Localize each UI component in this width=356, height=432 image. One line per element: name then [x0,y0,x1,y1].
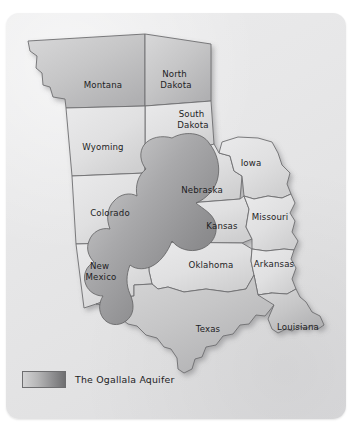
state-label-iowa: Iowa [241,158,262,168]
state-shape-arkansas [251,249,296,295]
state-label-nebraska: Nebraska [181,185,223,195]
legend-swatch-aquifer [22,371,66,388]
state-shape-wyoming [66,106,145,176]
legend-label-aquifer: The Ogallala Aquifer [75,374,174,385]
state-label-arkansas: Arkansas [254,259,295,269]
map-legend: The Ogallala Aquifer [22,371,174,388]
state-label-kansas: Kansas [206,221,238,231]
state-label-new-mexico-line1: New [90,261,109,271]
state-label-new-mexico-line2: Mexico [86,272,117,282]
state-shape-missouri [244,194,298,251]
state-label-south-dakota: South Dakota [177,109,208,130]
state-label-north-dakota: North Dakota [160,69,191,90]
state-label-louisiana: Louisiana [277,322,319,332]
state-label-missouri: Missouri [252,212,289,222]
state-label-texas: Texas [195,324,221,334]
state-label-wyoming: Wyoming [82,142,123,152]
state-shape-montana [28,34,145,108]
ogallala-aquifer-map-figure: Montana North Dakota South Dakota Wyomin… [0,0,356,432]
map-svg: Montana North Dakota South Dakota Wyomin… [6,13,346,419]
state-label-north-dakota-line2: Dakota [160,80,191,90]
state-label-oklahoma: Oklahoma [189,260,234,270]
state-label-south-dakota-line1: South [179,109,205,119]
state-label-new-mexico: New Mexico [86,261,117,282]
state-label-south-dakota-line2: Dakota [177,120,208,130]
state-label-colorado: Colorado [90,208,130,218]
state-label-north-dakota-line1: North [162,69,187,79]
map-panel: Montana North Dakota South Dakota Wyomin… [6,13,346,419]
state-label-montana: Montana [84,80,123,90]
